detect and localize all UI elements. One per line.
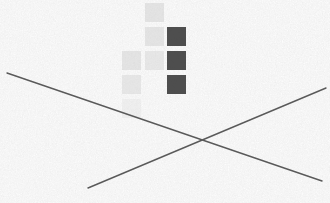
diagonal-line-pair (0, 0, 330, 203)
image-canvas (0, 0, 330, 203)
ascending-diagonal-line (88, 88, 326, 188)
descending-diagonal-line (7, 73, 322, 181)
